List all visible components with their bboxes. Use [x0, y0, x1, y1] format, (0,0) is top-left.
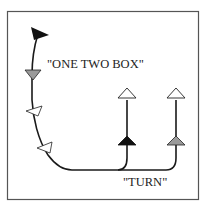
black-up-triangle-icon — [118, 136, 136, 145]
white-left-triangle-icon — [37, 142, 52, 153]
white-up-triangle-icon — [118, 88, 136, 98]
label-turn: "TURN" — [123, 175, 167, 189]
gesture-diagram: "ONE TWO BOX" "TURN" — [0, 0, 209, 205]
label-one-two-box: "ONE TWO BOX" — [47, 57, 144, 71]
gray-down-triangle-icon — [25, 70, 41, 80]
white-up-triangle-icon — [167, 88, 185, 98]
black-flag-icon — [31, 27, 49, 40]
white-left-triangle-icon — [26, 106, 42, 116]
gray-up-triangle-icon — [167, 136, 185, 145]
